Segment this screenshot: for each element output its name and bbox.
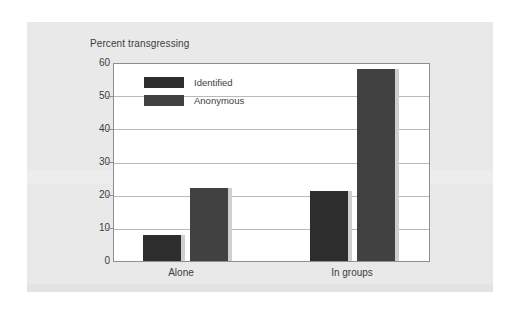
plot-area: Identified Anonymous [113,63,430,262]
bar-alone-identified [143,235,181,262]
bar-shadow-alone-anonymous [228,188,232,261]
bar-ingroups-anonymous [357,69,395,262]
legend-label-anonymous: Anonymous [194,95,244,106]
legend-item-identified: Identified [144,73,244,91]
legend-swatch-anonymous-icon [144,95,184,106]
bar-shadow-alone-identified [181,235,185,262]
page-canvas: Percent transgressing 60 50 40 30 20 10 … [0,0,514,310]
y-axis-tick-label-0: 0 [86,256,110,266]
legend-swatch-identified-icon [144,77,184,88]
x-axis-category-label-alone: Alone [141,267,221,278]
chart-title: Percent transgressing [90,38,189,49]
legend-label-identified: Identified [194,77,233,88]
bar-shadow-ingroups-anonymous [395,69,399,262]
panel-bottom-edge [27,284,493,292]
bar-shadow-ingroups-identified [348,191,352,261]
x-axis-category-label-in-groups: In groups [312,267,392,278]
y-axis-tick-label-60: 60 [86,58,110,68]
bar-alone-anonymous [190,188,228,261]
bar-ingroups-identified [310,191,348,261]
legend: Identified Anonymous [144,73,244,109]
legend-item-anonymous: Anonymous [144,91,244,109]
